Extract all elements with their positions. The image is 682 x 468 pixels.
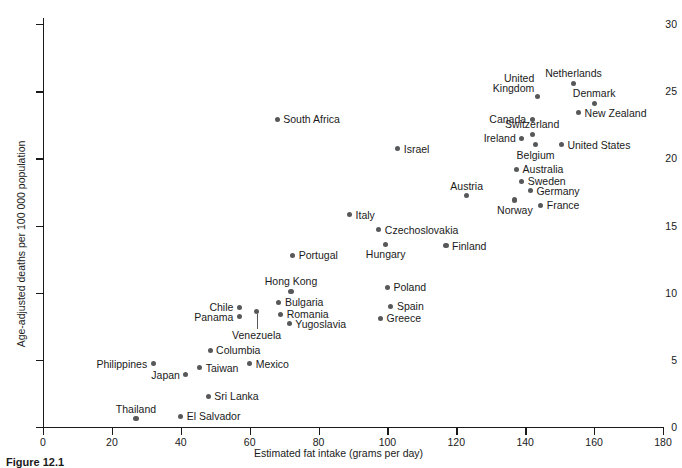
data-point [576, 110, 581, 115]
y-tick-label-5: 5 [643, 355, 677, 366]
x-tick-label-80: 80 [299, 437, 339, 448]
data-point-label: Norway [497, 205, 533, 216]
data-point-label: Hong Kong [265, 276, 318, 287]
x-tick-label-140: 140 [505, 437, 545, 448]
data-point [347, 212, 352, 217]
data-point [178, 414, 183, 419]
x-tick-label-20: 20 [92, 437, 132, 448]
x-tick-label-100: 100 [367, 437, 407, 448]
data-point-label: Czechoslovakia [385, 224, 459, 235]
data-point-label: Australia [523, 164, 564, 175]
x-axis-line [43, 427, 664, 428]
data-point-label: New Zealand [585, 107, 647, 118]
data-point-label: Italy [356, 210, 375, 221]
data-point [388, 304, 393, 309]
x-tick-20 [112, 428, 113, 435]
data-point-label: Hungary [366, 249, 406, 260]
y-axis-line [43, 18, 44, 428]
data-point-label: Poland [393, 282, 426, 293]
data-point-label: Thailand [116, 404, 156, 415]
data-point [559, 142, 564, 147]
data-point [512, 197, 517, 202]
x-tick-60 [250, 428, 251, 435]
x-tick-label-160: 160 [574, 437, 614, 448]
data-point-label: Switzerland [505, 119, 559, 130]
data-point-label: Belgium [517, 150, 555, 161]
data-point [276, 300, 281, 305]
label-leader-line [257, 314, 258, 329]
y-tick-label-10: 10 [643, 288, 677, 299]
x-tick-120 [456, 428, 457, 435]
data-point-label: Netherlands [545, 68, 602, 79]
data-point [443, 243, 448, 248]
data-point [151, 361, 156, 366]
data-point [287, 321, 292, 326]
data-point-label: UnitedKingdom [493, 72, 534, 93]
y-axis-title: Age-adjusted deaths per 100 000 populati… [15, 119, 27, 369]
figure-caption: Figure 12.1 [6, 456, 64, 468]
data-point-label: Panama [194, 312, 233, 323]
y-tick-10 [36, 293, 43, 294]
data-point-label: Greece [387, 313, 421, 324]
data-point [385, 285, 390, 290]
x-tick-40 [181, 428, 182, 435]
data-point [592, 101, 597, 106]
data-point-label: Austria [450, 181, 483, 192]
data-point [376, 227, 381, 232]
data-point [133, 416, 138, 421]
x-tick-180 [663, 428, 664, 435]
x-tick-label-40: 40 [161, 437, 201, 448]
x-tick-label-60: 60 [230, 437, 270, 448]
data-point [237, 314, 242, 319]
x-tick-140 [525, 428, 526, 435]
data-point-label: Bulgaria [285, 297, 324, 308]
data-point-label: Finland [452, 240, 486, 251]
x-tick-label-0: 0 [23, 437, 63, 448]
x-tick-100 [387, 428, 388, 435]
data-point-label: Yugoslavia [295, 318, 346, 329]
data-point-label: United States [567, 140, 630, 151]
data-point-label: Germany [536, 185, 579, 196]
data-point-label: Spain [397, 301, 424, 312]
x-tick-label-120: 120 [436, 437, 476, 448]
data-point-label: South Africa [283, 114, 340, 125]
y-tick-20 [36, 158, 43, 159]
data-point [395, 146, 400, 151]
y-tick-0 [36, 427, 43, 428]
x-tick-80 [319, 428, 320, 435]
x-tick-0 [43, 428, 44, 435]
data-point [275, 117, 280, 122]
y-tick-25 [36, 91, 43, 92]
data-point-label: Israel [404, 144, 430, 155]
data-point [183, 372, 188, 377]
data-point [514, 167, 519, 172]
data-point [278, 312, 283, 317]
y-tick-5 [36, 360, 43, 361]
data-point [206, 394, 211, 399]
data-point-label: El Salvador [187, 411, 241, 422]
y-tick-30 [36, 24, 43, 25]
data-point [208, 348, 213, 353]
data-point [237, 305, 242, 310]
data-point [538, 203, 543, 208]
data-point-label: Columbia [216, 345, 260, 356]
y-tick-label-15: 15 [643, 221, 677, 232]
data-point [528, 188, 533, 193]
data-point [519, 179, 524, 184]
data-point [197, 365, 202, 370]
x-tick-160 [594, 428, 595, 435]
data-point-label: Denmark [573, 88, 616, 99]
data-point-label: Sri Lanka [214, 391, 258, 402]
data-point-label: Mexico [256, 359, 289, 370]
x-tick-label-180: 180 [643, 437, 682, 448]
data-point [535, 94, 540, 99]
data-point [254, 309, 259, 314]
y-tick-label-20: 20 [643, 153, 677, 164]
y-tick-label-25: 25 [643, 86, 677, 97]
data-point [519, 136, 524, 141]
data-point-label: Japan [151, 369, 180, 380]
y-tick-label-0: 0 [643, 422, 677, 433]
x-axis-title: Estimated fat intake (grams per day) [0, 447, 677, 459]
